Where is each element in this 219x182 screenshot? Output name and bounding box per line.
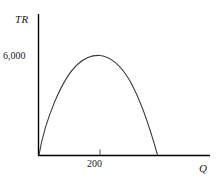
total-revenue-curve-path xyxy=(39,55,158,155)
chart-plot-area xyxy=(0,0,219,182)
y-axis-title: TR xyxy=(15,14,28,25)
y-axis-tick-label-6000: 6,000 xyxy=(3,51,26,61)
x-axis-tick-label-200: 200 xyxy=(87,159,102,169)
chart-figure: TR Q 6,000 200 xyxy=(0,0,219,182)
x-axis-title: Q xyxy=(199,163,207,174)
